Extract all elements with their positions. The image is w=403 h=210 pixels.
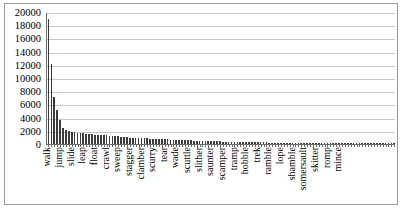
y-axis-tick-label: 14000: [15, 48, 41, 58]
y-axis-tick-label: 2000: [20, 127, 41, 137]
x-axis-tick-label: hobble: [240, 147, 250, 174]
x-axis-tick-label: jump: [54, 147, 64, 168]
x-axis-tick-label: mince: [333, 147, 343, 171]
bar-slot: [393, 13, 396, 144]
x-axis-tick-label: skitter: [310, 147, 320, 172]
x-axis: walkjumpslideleapfloatcrawlsweepstaggerc…: [46, 147, 395, 205]
x-axis-tick-label: shamble: [287, 147, 297, 180]
plot-area: [46, 13, 395, 145]
y-axis-tick-label: 12000: [15, 61, 41, 71]
x-axis-tick-label: float: [89, 147, 99, 165]
x-axis-tick-label: slide: [66, 147, 76, 166]
y-axis-tick-label: 16000: [15, 34, 41, 44]
y-axis-tick-label: 20000: [15, 8, 41, 18]
y-axis-tick-label: 10000: [15, 74, 41, 84]
x-axis-tick-label: crawl: [101, 147, 111, 169]
y-axis-tick-label: 8000: [20, 87, 41, 97]
bar-series: [47, 13, 395, 144]
x-axis-tick-label: walk: [42, 147, 52, 166]
x-axis-tick-label: slither: [194, 147, 204, 172]
x-axis-tick-label: romp: [322, 147, 332, 168]
x-axis-tick-label: clamber: [136, 147, 146, 179]
y-axis-tick-label: 4000: [20, 114, 41, 124]
x-axis-tick-label: scurry: [147, 147, 157, 172]
x-axis-tick-label: sweep: [112, 147, 122, 172]
x-axis-tick-label: trek: [252, 147, 262, 163]
x-axis-tick-label: scuttle: [182, 147, 192, 173]
x-axis-tick-label: stagger: [124, 147, 134, 176]
y-axis-tick-label: 6000: [20, 100, 41, 110]
y-axis-tick-label: 18000: [15, 21, 41, 31]
x-axis-tick-label: leap: [77, 147, 87, 164]
x-axis-tick-label: somersault: [298, 147, 308, 190]
chart-frame: 2000018000160001400012000100008000600040…: [4, 3, 398, 205]
y-axis: 2000018000160001400012000100008000600040…: [5, 4, 44, 154]
x-axis-tick-label: tramp: [229, 147, 239, 170]
x-axis-tick-label: scamper: [217, 147, 227, 180]
x-axis-tick-label: lope: [275, 147, 285, 164]
x-axis-tick-label: saunter: [205, 147, 215, 176]
x-axis-tick-label: tear: [159, 147, 169, 162]
x-axis-tick-label: wade: [170, 147, 180, 168]
x-axis-tick-label: ramble: [263, 147, 273, 175]
